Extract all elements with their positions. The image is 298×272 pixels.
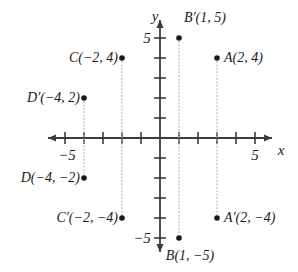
point-B	[176, 235, 182, 241]
y-tick-label-5: 5	[143, 31, 151, 46]
point-C-prime	[119, 215, 125, 221]
y-axis-arrow-down	[156, 244, 163, 252]
point-label-C: C(−2, 4)	[69, 51, 118, 65]
x-tick-label--5: −5	[58, 148, 76, 163]
coordinate-plane-figure: y x −5 5 5 −5 A(2, 4) A′(2, −4) B′(1, 5)…	[0, 0, 298, 272]
point-label-B: B(1, −5)	[166, 249, 214, 263]
point-label-D-prime: D′(−4, 2)	[27, 91, 80, 105]
x-axis-arrow-left	[48, 134, 56, 141]
point-label-A: A(2, 4)	[224, 51, 263, 65]
point-B-prime	[176, 35, 182, 41]
point-A	[214, 55, 220, 61]
y-axis-label: y	[152, 9, 159, 24]
point-label-B-prime: B′(1, 5)	[184, 11, 226, 25]
x-axis-arrow-right	[264, 134, 272, 141]
x-axis-label: x	[278, 143, 285, 158]
point-label-D: D(−4, −2)	[21, 171, 80, 185]
point-D	[81, 175, 87, 181]
x-tick-label-5: 5	[251, 148, 259, 163]
point-C	[119, 55, 125, 61]
point-label-C-prime: C′(−2, −4)	[56, 211, 118, 225]
point-D-prime	[81, 95, 87, 101]
point-A-prime	[214, 215, 220, 221]
y-tick-label--5: −5	[133, 231, 151, 246]
point-label-A-prime: A′(2, −4)	[224, 211, 275, 225]
